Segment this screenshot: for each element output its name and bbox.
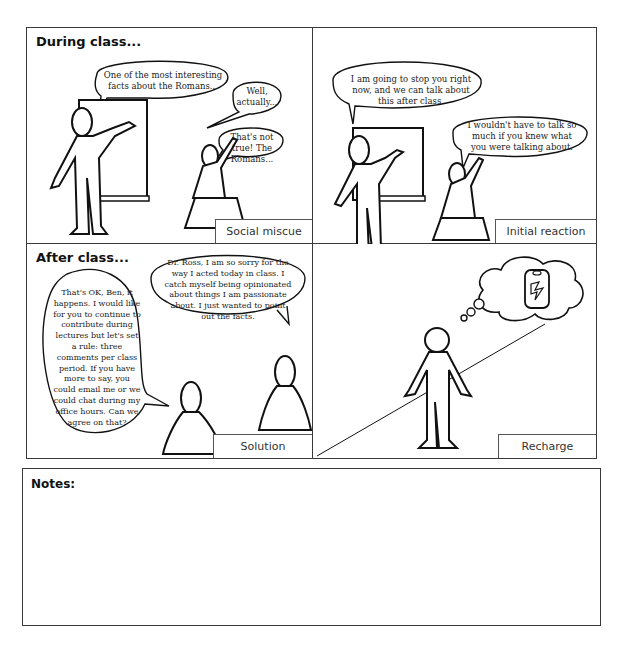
notes-box[interactable]: Notes: xyxy=(22,468,601,626)
panel-social-miscue: During class... One of the most interest… xyxy=(27,28,313,244)
panel-caption: Solution xyxy=(213,434,312,458)
panel-caption: Social miscue xyxy=(215,219,312,243)
speech-bubble-student: Well, actually... xyxy=(235,86,279,108)
panel-recharge: Recharge xyxy=(313,244,596,458)
panel-title: After class... xyxy=(36,250,129,265)
panel-solution: After class... That's OK, Ben, it happen… xyxy=(27,244,313,458)
battery-icon xyxy=(525,270,549,308)
speech-bubble-teacher: I am going to stop you right now, and we… xyxy=(349,74,473,107)
speech-bubble-student: That's not true! The Romans... xyxy=(223,132,281,165)
recharge-illustration xyxy=(313,244,596,458)
panel-title: During class... xyxy=(36,34,141,49)
speech-bubble-student: I wouldn't have to talk so much if you k… xyxy=(463,120,581,153)
speech-bubble-teacher: One of the most interesting facts about … xyxy=(103,70,223,92)
panel-caption: Initial reaction xyxy=(495,219,596,243)
panel-initial-reaction: I am going to stop you right now, and we… xyxy=(313,28,596,244)
speech-bubble-teacher: That's OK, Ben, it happens. I would like… xyxy=(53,288,141,428)
speech-bubble-student: Dr. Ross, I am so sorry for the way I ac… xyxy=(163,258,293,323)
notes-title: Notes: xyxy=(31,477,75,491)
comic-strip: During class... One of the most interest… xyxy=(26,27,597,459)
panel-caption: Recharge xyxy=(498,434,596,458)
